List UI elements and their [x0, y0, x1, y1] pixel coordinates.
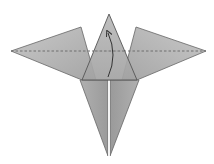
- left-leg: [80, 80, 108, 156]
- right-wing: [122, 27, 206, 80]
- center-flap: [82, 14, 137, 80]
- origami-diagram: [0, 0, 214, 164]
- left-wing: [11, 27, 96, 80]
- origami-diagram-canvas: [0, 0, 214, 164]
- right-leg: [110, 80, 139, 156]
